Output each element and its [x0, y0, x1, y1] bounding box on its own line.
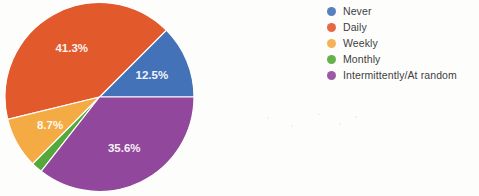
- legend-item-label: Never: [343, 5, 372, 17]
- legend-item[interactable]: Weekly: [327, 35, 477, 51]
- legend-item-label: Daily: [343, 21, 367, 33]
- legend-color-swatch-icon: [327, 39, 336, 48]
- scan-artifact: [255, 108, 365, 134]
- pie-chart: 12.5%41.3%8.7%35.6%: [3, 2, 196, 194]
- pie-slice-label: 12.5%: [136, 69, 169, 81]
- pie-slice-label: 35.6%: [108, 142, 141, 154]
- legend-color-swatch-icon: [327, 55, 336, 64]
- pie-slice-label: 8.7%: [37, 119, 63, 131]
- pie-chart-svg: 12.5%41.3%8.7%35.6%: [3, 2, 196, 194]
- legend-item[interactable]: Never: [327, 3, 477, 19]
- legend-item[interactable]: Monthly: [327, 51, 477, 67]
- legend-color-swatch-icon: [327, 23, 336, 32]
- legend-item-label: Monthly: [343, 53, 380, 65]
- legend-color-swatch-icon: [327, 7, 336, 16]
- legend-item-label: Weekly: [343, 37, 378, 49]
- legend-item-label: Intermittently/At random: [343, 69, 457, 81]
- legend-item[interactable]: Intermittently/At random: [327, 67, 477, 83]
- legend-color-swatch-icon: [327, 71, 336, 80]
- chart-legend: NeverDailyWeeklyMonthlyIntermittently/At…: [327, 3, 477, 83]
- pie-slice-label: 41.3%: [55, 42, 88, 54]
- chart-page: 12.5%41.3%8.7%35.6% NeverDailyWeeklyMont…: [0, 0, 479, 196]
- pie-slice-group: [5, 3, 194, 192]
- legend-item[interactable]: Daily: [327, 19, 477, 35]
